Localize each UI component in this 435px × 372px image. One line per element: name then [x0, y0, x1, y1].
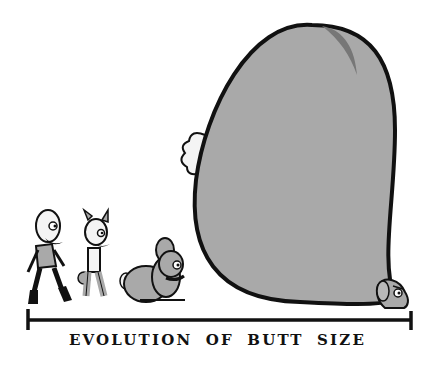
human-figure — [28, 210, 72, 304]
hybrid-figure — [78, 210, 110, 296]
giant-butt-bunny — [181, 25, 408, 308]
evolution-illustration — [0, 0, 435, 372]
timeline-axis — [28, 309, 411, 330]
caption-title: EVOLUTION OF BUTT SIZE — [0, 331, 435, 349]
bunny-figure — [120, 238, 185, 302]
